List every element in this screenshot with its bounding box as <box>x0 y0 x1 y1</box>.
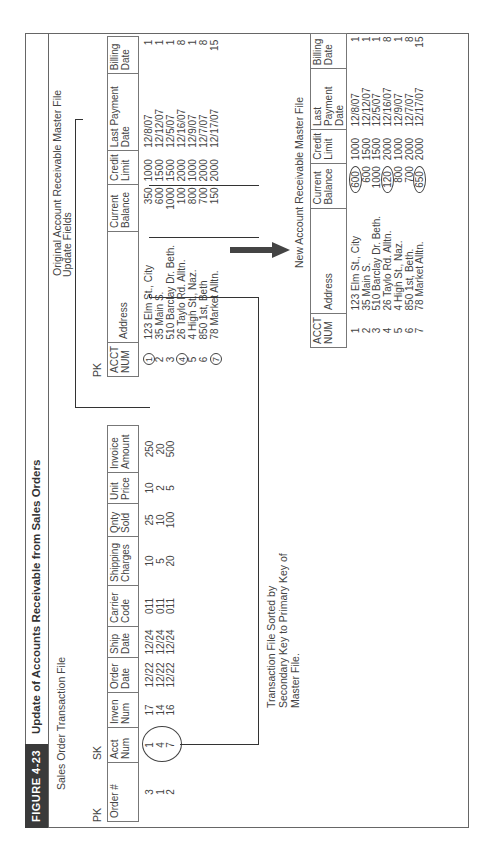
new-master-table: ACCT NUM Address Current Balance Credit … <box>310 33 426 348</box>
table-row: 2 7 16 12/22 12/24 011 20 100 5 500 <box>166 425 177 821</box>
new-master-title: New Account Receivable Master File <box>293 97 305 268</box>
col-billing-date: Billing Date <box>311 34 347 69</box>
new-header-row: ACCT NUM Address Current Balance Credit … <box>311 34 347 348</box>
sales-header-row: Order # Acct Num Inven Num Order Date Sh… <box>108 425 139 821</box>
sales-sk-label: SK <box>91 746 103 760</box>
col-current-balance: Current Balance <box>108 184 139 231</box>
original-header-row: ACCT NUM Address Current Balance Credit … <box>108 37 139 377</box>
circled-balance: 650 <box>413 166 426 193</box>
col-credit-limit: Credit Limit <box>311 129 347 163</box>
col-acct-num: ACCT NUM <box>108 342 139 376</box>
col-order-date: Order Date <box>108 658 139 693</box>
original-master-title-text: Original Account Receivable Master File <box>51 90 63 276</box>
connector-line <box>258 298 259 745</box>
col-address: Address <box>108 231 139 342</box>
table-row: 6 850 1st, Beth 700 2000 12/7/07 8 <box>199 37 210 377</box>
table-row: 5 4 High St., Naz. 800 1000 12/9/07 1 <box>394 34 405 348</box>
master-pk-label: PK <box>91 363 103 377</box>
col-current-balance: Current Balance <box>311 163 347 208</box>
table-row: 3 510 Barclay Dr. Beth. 1000 1500 12/5/0… <box>166 37 177 377</box>
col-last-payment-date: Last Payment Date <box>108 74 139 151</box>
col-billing-date: Billing Date <box>108 37 139 74</box>
circled-key: 7 <box>210 353 222 365</box>
col-invoice-amount: Invoice Amount <box>108 425 139 472</box>
col-address: Address <box>311 208 347 313</box>
col-acct-num: Acct Num <box>108 728 139 763</box>
col-inven-num: Inven Num <box>108 693 139 728</box>
col-shipping-charges: Shipping Charges <box>108 536 139 585</box>
sales-order-table: Order # Acct Num Inven Num Order Date Sh… <box>107 425 177 822</box>
figure-page: FIGURE 4-23 Update of Accounts Receivabl… <box>25 33 469 828</box>
figure-header: FIGURE 4-23 Update of Accounts Receivabl… <box>25 33 49 828</box>
col-acct-num: ACCT NUM <box>311 313 347 347</box>
sales-file-title: Sales Order Transaction File <box>55 657 67 790</box>
acct-num-oval <box>142 726 182 762</box>
figure-label: FIGURE 4-23 <box>25 744 48 828</box>
col-ship-date: Ship Date <box>108 626 139 657</box>
connector-line <box>180 744 258 745</box>
update-bracket-line <box>75 407 150 408</box>
sales-pk-label: PK <box>91 808 103 822</box>
sort-annotation: Transaction File Sorted by Secondary Key… <box>265 553 301 708</box>
right-arrow-icon <box>230 242 290 258</box>
col-order-num: Order # <box>108 763 139 822</box>
update-bracket-line <box>75 120 76 408</box>
figure-title: Update of Accounts Receivable from Sales… <box>25 460 48 734</box>
col-carrier-code: Carrier Code <box>108 585 139 626</box>
update-bracket-line <box>75 119 83 120</box>
col-last-payment-date: Last Payment Date <box>311 69 347 130</box>
table-row: 7 78 Market Alltn. 650 2000 12/17/07 15 <box>415 34 426 348</box>
original-master-table: ACCT NUM Address Current Balance Credit … <box>107 36 222 377</box>
col-qnty-sold: Qnty Sold <box>108 503 139 536</box>
col-unit-price: Unit Price <box>108 472 139 503</box>
col-credit-limit: Credit Limit <box>108 151 139 185</box>
table-row: 7 78 Market Alltn. 150 2000 12/17/07 15 <box>210 37 222 377</box>
